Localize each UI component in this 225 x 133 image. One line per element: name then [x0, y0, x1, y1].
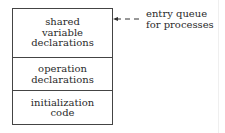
initialization-code-label: initialization code — [31, 98, 94, 119]
operation-declarations-label: operation declarations — [31, 64, 94, 85]
operation-declarations-section: operation declarations — [13, 57, 112, 91]
shared-variable-declarations-label: shared variable declarations — [31, 17, 94, 49]
monitor-box: shared variable declarations operation d… — [12, 8, 113, 125]
entry-queue-label: entry queue for processes — [146, 9, 214, 30]
dashed-arrow-left-icon — [112, 14, 146, 24]
page-edge-divider — [218, 0, 219, 133]
initialization-code-section: initialization code — [13, 90, 112, 125]
shared-variable-declarations-section: shared variable declarations — [13, 9, 112, 57]
